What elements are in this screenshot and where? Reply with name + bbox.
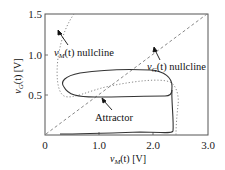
vm-nullcline-label: vM(t) nullcline bbox=[54, 47, 114, 60]
x-axis-label: vM(t) [V] bbox=[110, 153, 146, 166]
y-axis-label: vG(t) [V] bbox=[12, 58, 25, 93]
x-tick-2: 2.0 bbox=[146, 139, 160, 151]
x-tick-3: 3.0 bbox=[201, 139, 215, 151]
attractor-label: Attractor bbox=[95, 112, 133, 123]
x-tick-1: 1.0 bbox=[92, 139, 106, 151]
vg-nullcline-label: vG(t) nullcline bbox=[147, 61, 206, 74]
x-tick-0: 0 bbox=[42, 139, 48, 151]
y-tick-1: 1.0 bbox=[28, 49, 42, 61]
y-tick-2: 1.5 bbox=[28, 8, 42, 20]
y-tick-0: 0.5 bbox=[28, 89, 42, 101]
attractor-curve-inner bbox=[64, 87, 172, 97]
phase-plot: 0 1.0 2.0 3.0 0.5 1.0 1.5 vM(t) [V] vG(t… bbox=[0, 0, 225, 170]
attractor-curve-bottom bbox=[60, 70, 173, 134]
